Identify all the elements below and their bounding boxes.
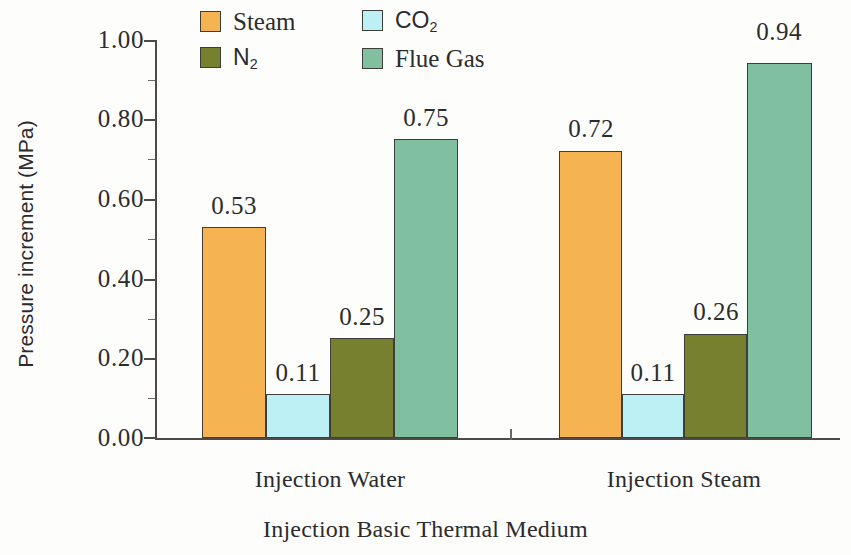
legend-label-flue-gas: Flue Gas [395, 46, 485, 71]
legend-label-steam: Steam [233, 9, 296, 34]
bar-injection-water-steam[interactable] [202, 227, 266, 438]
y-tick-major-0-60 [144, 199, 155, 201]
x-axis-category-label-injection-steam: Injection Steam [607, 466, 761, 493]
y-tick-major-0-20 [144, 358, 155, 360]
y-tick-label-0-80: 0.80 [40, 105, 144, 133]
legend-label-n2: N2 [233, 46, 258, 69]
bar-value-label-injection-water-n2: 0.25 [339, 303, 385, 331]
bar-value-label-injection-steam-steam: 0.72 [568, 115, 614, 143]
bar-injection-water-co2[interactable] [266, 394, 330, 438]
bar-injection-steam-steam[interactable] [559, 151, 622, 438]
plot-area: 0.53 0.11 0.25 0.75 0.72 0.11 0.26 0.94 [155, 40, 840, 438]
legend-swatch-flue-gas-icon [362, 48, 383, 69]
y-tick-label-0-40: 0.40 [40, 265, 144, 293]
legend-swatch-n2-icon [200, 47, 221, 68]
bar-injection-steam-co2[interactable] [622, 394, 684, 438]
x-axis-category-separator [510, 429, 512, 440]
y-tick-label-0-00: 0.00 [40, 424, 144, 452]
bar-value-label-injection-steam-co2: 0.11 [631, 359, 676, 387]
y-tick-minor-0-30 [148, 319, 155, 320]
bar-injection-steam-n2[interactable] [684, 334, 747, 438]
y-tick-minor-0-70 [148, 159, 155, 160]
bar-value-label-injection-steam-n2: 0.26 [693, 298, 739, 326]
chart-legend: Steam N2 CO2 Flue Gas [200, 6, 620, 80]
y-tick-major-0-00 [144, 437, 155, 439]
y-tick-label-0-20: 0.20 [40, 344, 144, 372]
y-tick-minor-0-90 [148, 80, 155, 81]
y-axis-title: Pressure increment (MPa) [14, 89, 38, 399]
legend-label-co2-text: CO [395, 7, 430, 33]
bar-injection-water-flue-gas[interactable] [394, 139, 458, 438]
legend-item-flue-gas[interactable]: Flue Gas [362, 46, 485, 71]
bar-injection-steam-flue-gas[interactable] [747, 63, 812, 438]
y-axis-line [155, 40, 157, 438]
legend-item-steam[interactable]: Steam [200, 9, 296, 34]
x-axis-title: Injection Basic Thermal Medium [0, 516, 851, 543]
y-tick-label-1-00: 1.00 [40, 26, 144, 54]
y-tick-major-1-00 [144, 40, 155, 42]
bar-chart: Pressure increment (MPa) 1.00 0.80 0.60 … [0, 0, 851, 555]
y-tick-major-0-40 [144, 279, 155, 281]
legend-label-n2-text: N [233, 44, 250, 70]
y-tick-minor-0-10 [148, 398, 155, 399]
legend-swatch-co2-icon [362, 10, 383, 31]
bar-value-label-injection-steam-flue-gas: 0.94 [756, 18, 802, 46]
x-axis-category-label-injection-water: Injection Water [255, 466, 406, 493]
legend-item-n2[interactable]: N2 [200, 46, 258, 69]
y-axis-tick-labels: 1.00 0.80 0.60 0.40 0.20 0.00 [40, 0, 144, 555]
y-tick-minor-0-50 [148, 239, 155, 240]
y-tick-major-0-80 [144, 119, 155, 121]
bar-value-label-injection-water-steam: 0.53 [211, 192, 257, 220]
legend-swatch-steam-icon [200, 11, 221, 32]
legend-item-co2[interactable]: CO2 [362, 9, 437, 32]
bar-injection-water-n2[interactable] [330, 338, 394, 438]
bar-value-label-injection-water-flue-gas: 0.75 [403, 104, 449, 132]
x-axis-line [155, 438, 840, 440]
legend-label-co2: CO2 [395, 9, 437, 32]
y-tick-label-0-60: 0.60 [40, 185, 144, 213]
bar-value-label-injection-water-co2: 0.11 [276, 359, 321, 387]
legend-label-n2-sub: 2 [250, 56, 258, 72]
legend-label-co2-sub: 2 [430, 19, 438, 35]
